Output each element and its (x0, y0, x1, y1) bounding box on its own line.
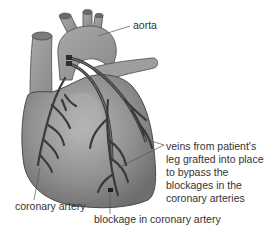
label-aorta: aorta (133, 19, 157, 32)
label-veins-line: leg grafted into place (166, 153, 273, 166)
label-blockage: blockage in coronary artery (94, 213, 221, 226)
label-coronary-artery: coronary artery (15, 200, 86, 213)
label-veins-line: coronary arteries (166, 192, 273, 205)
label-veins-line: to bypass the (166, 166, 273, 179)
vena-cava (30, 36, 52, 98)
heart-bypass-diagram: aorta veins from patient's leg grafted i… (0, 0, 273, 233)
label-veins-line: veins from patient's (166, 140, 273, 153)
label-bypass-veins: veins from patient's leg grafted into pl… (166, 140, 273, 205)
vena-cava-opening (32, 32, 52, 40)
blockage-marker (108, 188, 113, 192)
label-veins-line: blockages in the (166, 179, 273, 192)
